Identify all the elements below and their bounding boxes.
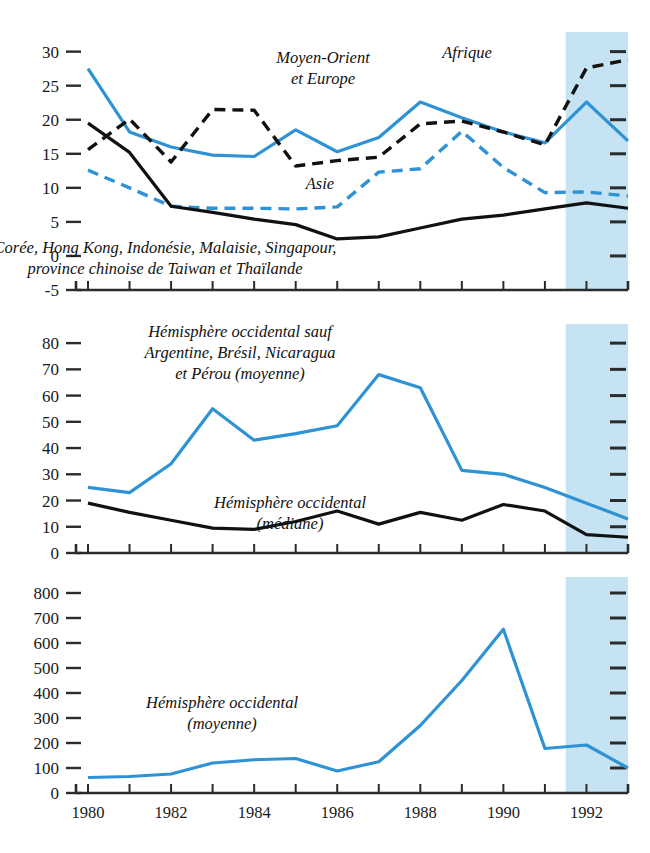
y-tick-label: 400	[34, 684, 60, 703]
ann-hem-occ-sauf: et Pérou (moyenne)	[175, 364, 305, 383]
y-tick-label: 80	[42, 334, 59, 353]
x-tick-label: 1986	[321, 803, 354, 822]
ann-afrique: Afrique	[441, 43, 492, 62]
y-tick-label: 10	[42, 179, 59, 198]
ann-hem-occ-mediane: (médiane)	[257, 514, 324, 533]
x-tick-label: 1992	[570, 803, 603, 822]
series-line-1	[88, 60, 628, 166]
y-tick-label: 500	[34, 659, 60, 678]
ann-hem-occ-moyenne: (moyenne)	[187, 714, 257, 733]
y-tick-label: 50	[42, 413, 59, 432]
series-line-0	[88, 69, 628, 157]
projection-shaded-region	[566, 32, 628, 290]
y-tick-label: 700	[34, 609, 60, 628]
x-tick-label: 1980	[72, 803, 105, 822]
y-tick-label: 60	[42, 387, 59, 406]
x-tick-label: 1982	[155, 803, 188, 822]
panel-top: -5051015202530Moyen-Orientet EuropeAfriq…	[0, 32, 628, 300]
y-tick-label: 40	[42, 439, 59, 458]
x-tick-label: 1984	[238, 803, 271, 822]
y-tick-label: 300	[34, 709, 60, 728]
y-tick-label: 15	[42, 145, 59, 164]
figure-root: -5051015202530Moyen-Orientet EuropeAfriq…	[0, 0, 650, 853]
panel-middle: 01020304050607080Hémisphère occidental s…	[42, 322, 628, 563]
ann-hem-occ-moyenne: Hémisphère occidental	[145, 693, 298, 712]
x-tick-label: 1988	[404, 803, 437, 822]
ann-moyen-orient: et Europe	[291, 69, 355, 88]
x-axis-year-labels: 1980198219841986198819901992	[72, 803, 603, 822]
y-tick-label: 20	[42, 111, 59, 130]
y-tick-label: 5	[51, 213, 60, 232]
y-tick-label: 600	[34, 634, 60, 653]
multi-panel-line-chart: -5051015202530Moyen-Orientet EuropeAfriq…	[0, 0, 650, 853]
ann-tigres: province chinoise de Taiwan et Thaïlande	[26, 259, 302, 278]
ann-hem-occ-mediane: Hémisphère occidental	[213, 493, 366, 512]
panel-bottom: 0100200300400500600700800Hémisphère occi…	[34, 577, 629, 803]
ann-hem-occ-sauf: Hémisphère occidental sauf	[147, 322, 334, 341]
y-tick-label: 70	[42, 360, 59, 379]
y-tick-label: 30	[42, 43, 59, 62]
y-tick-label: 100	[34, 759, 60, 778]
ann-tigres: Corée, Hong Kong, Indonésie, Malaisie, S…	[0, 238, 336, 257]
y-tick-label: 200	[34, 734, 60, 753]
y-tick-label: 0	[51, 784, 60, 803]
projection-shaded-region	[566, 324, 628, 553]
y-tick-label: 10	[42, 518, 59, 537]
y-tick-label: -5	[45, 281, 59, 300]
ann-hem-occ-sauf: Argentine, Brésil, Nicaragua	[144, 343, 336, 362]
ann-moyen-orient: Moyen-Orient	[275, 48, 370, 67]
y-tick-label: 30	[42, 465, 59, 484]
y-tick-label: 800	[34, 584, 60, 603]
y-tick-label: 20	[42, 492, 59, 511]
y-tick-label: 0	[51, 544, 60, 563]
ann-asie: Asie	[305, 174, 334, 193]
x-tick-label: 1990	[487, 803, 520, 822]
y-tick-label: 25	[42, 77, 59, 96]
projection-shaded-region	[566, 577, 628, 793]
